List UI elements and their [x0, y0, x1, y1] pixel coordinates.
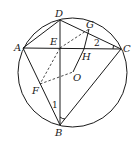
segment-AC: [23, 48, 121, 49]
geometry-diagram: D A C E G H O F B 1 2: [0, 0, 140, 150]
label-A: A: [13, 42, 21, 53]
segment-EF: [40, 48, 60, 84]
segment-FO: [40, 72, 73, 84]
label-O: O: [73, 72, 81, 83]
angle-label-2: 2: [94, 38, 100, 48]
label-D: D: [54, 8, 63, 19]
label-H: H: [81, 51, 91, 62]
label-B: B: [54, 127, 62, 138]
label-E: E: [49, 36, 58, 47]
segment-AB: [23, 48, 60, 125]
label-F: F: [31, 85, 40, 96]
angle-label-1: 1: [52, 100, 58, 110]
angle-arc-1: [60, 117, 65, 119]
label-C: C: [123, 43, 131, 54]
label-G: G: [86, 19, 94, 30]
